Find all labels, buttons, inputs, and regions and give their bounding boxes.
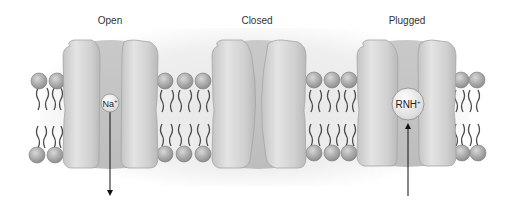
na-ion-charge: + (114, 98, 118, 104)
channel-open-left-lobe (63, 40, 100, 168)
ion-channel-diagram: Open Closed Plugged Na+ RNH+ (0, 0, 511, 204)
rnh-ion-symbol: RNH (395, 99, 417, 110)
diagram-canvas (0, 0, 511, 204)
channel-closed (212, 40, 306, 169)
channel-open-right-lobe (121, 40, 158, 168)
state-label-plugged: Plugged (389, 15, 426, 26)
na-ion-label: Na+ (102, 98, 117, 109)
na-ion-symbol: Na (102, 99, 114, 109)
rnh-ion-label: RNH+ (395, 99, 420, 110)
rnh-ion-charge: + (417, 99, 421, 105)
state-label-open: Open (98, 15, 122, 26)
channel-closed-left-lobe (212, 40, 256, 168)
state-label-closed: Closed (241, 15, 272, 26)
channel-closed-right-lobe (261, 40, 306, 168)
